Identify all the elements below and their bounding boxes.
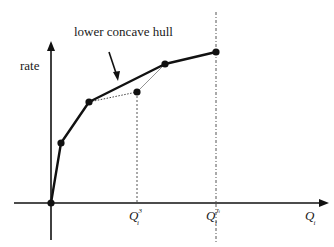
- tick-sup: 3: [138, 207, 142, 215]
- tick-sup: Ji: [215, 207, 220, 215]
- hull-line: [51, 52, 216, 203]
- tick-base: Q: [206, 208, 215, 223]
- non-hull-point: [133, 88, 140, 95]
- dotted-segment: [89, 92, 137, 102]
- tick-sub: i: [137, 219, 139, 227]
- hull-point: [212, 48, 219, 55]
- hull-point: [161, 60, 168, 67]
- thin-segment: [137, 64, 165, 92]
- hull-point: [85, 98, 92, 105]
- tick-label-qj: QJii: [206, 208, 222, 226]
- concave-hull-diagram: lower concave hull rate Q3i QJii Qi: [0, 0, 334, 247]
- x-label-sub: i: [313, 219, 315, 227]
- tick-sub: i: [215, 219, 217, 227]
- y-axis-arrow-icon: [47, 41, 55, 51]
- hull-point: [57, 139, 64, 146]
- x-axis-label: Qi: [305, 208, 316, 226]
- annotation-arrow-icon: [113, 71, 120, 81]
- hull-annotation: lower concave hull: [74, 24, 173, 40]
- tick-label-q3: Q3i: [129, 208, 144, 226]
- hull-point: [47, 199, 54, 206]
- x-axis-arrow-icon: [319, 199, 329, 207]
- y-axis-label: rate: [20, 58, 39, 74]
- tick-sup-sub: i: [219, 209, 220, 214]
